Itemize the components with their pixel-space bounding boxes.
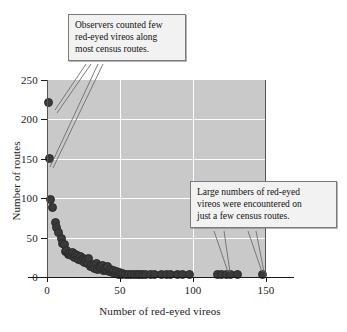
annotation-high-line-2: vireos were encountered on — [197, 198, 331, 210]
y-tick-label: 50 — [27, 233, 38, 244]
annotation-low-line-2: red-eyed vireos along — [75, 31, 180, 43]
x-tick-label: 0 — [32, 285, 62, 296]
plot-left-spine — [47, 80, 48, 278]
x-axis-line — [28, 277, 294, 278]
plot-right-spine — [265, 80, 266, 278]
x-tick-mark — [266, 277, 267, 282]
y-tick-label: 0 — [32, 272, 38, 283]
x-tick-mark — [120, 277, 121, 282]
gridline-y-150 — [47, 159, 266, 160]
annotation-low-line-1: Observers counted few — [75, 19, 180, 31]
x-tick-mark — [193, 277, 194, 282]
y-tick-label: 250 — [21, 75, 38, 86]
x-tick-label: 100 — [178, 285, 208, 296]
y-tick-mark — [41, 198, 47, 199]
x-tick-label: 150 — [251, 285, 281, 296]
plot-area — [47, 80, 266, 277]
gridline-y-50 — [47, 238, 266, 239]
y-tick-mark — [41, 238, 47, 239]
scatter-plot-figure: 050100150200250 050100150 Number of red-… — [0, 0, 347, 332]
annotation-callout-high-counts: Large numbers of red-eyed vireos were en… — [190, 181, 337, 228]
data-point — [48, 203, 57, 212]
annotation-high-line-3: just a few census routes. — [197, 210, 331, 222]
x-axis-title: Number of red-eyed vireos — [0, 305, 320, 317]
y-axis-title: Number of routes — [10, 111, 22, 251]
annotation-high-line-1: Large numbers of red-eyed — [197, 186, 331, 198]
gridline-x-100 — [193, 80, 194, 277]
data-point — [44, 98, 53, 107]
y-tick-mark — [41, 159, 47, 160]
annotation-callout-low-counts: Observers counted few red-eyed vireos al… — [68, 14, 186, 61]
y-tick-label: 150 — [21, 154, 38, 165]
y-tick-mark — [41, 119, 47, 120]
y-tick-mark — [41, 80, 47, 81]
gridline-x-50 — [120, 80, 121, 277]
x-tick-label: 50 — [105, 285, 135, 296]
x-tick-mark — [47, 277, 48, 282]
y-tick-label: 100 — [21, 193, 38, 204]
gridline-y-200 — [47, 119, 266, 120]
annotation-low-line-3: most census routes. — [75, 43, 180, 55]
y-tick-label: 200 — [21, 114, 38, 125]
